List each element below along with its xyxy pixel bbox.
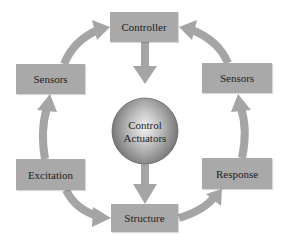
node-response: Response bbox=[202, 158, 272, 189]
node-response-label: Response bbox=[216, 168, 258, 180]
node-control-actuators: Control Actuators bbox=[112, 112, 178, 152]
node-controller: Controller bbox=[110, 12, 178, 42]
node-sensors-right: Sensors bbox=[202, 63, 272, 93]
arrow-structure-to-response bbox=[179, 189, 222, 218]
arrow-response-to-sensors-right bbox=[231, 94, 251, 158]
node-excitation: Excitation bbox=[16, 159, 85, 190]
node-actuators-label-line1: Control bbox=[128, 119, 162, 132]
node-actuators-label-line2: Actuators bbox=[124, 132, 167, 145]
arrow-excitation-to-structure bbox=[66, 190, 111, 227]
node-structure: Structure bbox=[111, 204, 178, 232]
arrow-controller-to-actuators bbox=[133, 42, 157, 84]
control-loop-diagram: Controller Sensors Sensors Excitation Re… bbox=[0, 0, 289, 250]
node-sensors-right-label: Sensors bbox=[220, 72, 254, 84]
arrow-sensors-left-to-controller bbox=[64, 20, 110, 64]
node-structure-label: Structure bbox=[124, 212, 164, 224]
node-sensors-left: Sensors bbox=[16, 64, 85, 94]
node-controller-label: Controller bbox=[121, 21, 166, 33]
node-sensors-left-label: Sensors bbox=[33, 73, 67, 85]
arrow-excitation-to-sensors-left bbox=[37, 94, 57, 159]
node-excitation-label: Excitation bbox=[28, 169, 73, 181]
arrow-actuators-to-structure bbox=[133, 162, 157, 204]
arrow-sensors-right-to-controller bbox=[179, 20, 228, 63]
